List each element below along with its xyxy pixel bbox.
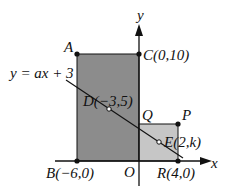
label-C: C(0,10)	[143, 47, 189, 64]
label-D: D(−3,5)	[82, 93, 133, 110]
point-R	[175, 158, 180, 163]
point-C	[136, 51, 141, 56]
label-E: E(2,k)	[163, 134, 201, 151]
label-Q: Q	[142, 107, 153, 123]
origin-label: O	[124, 164, 135, 180]
label-A: A	[63, 39, 74, 55]
x-axis-label: x	[210, 155, 218, 171]
point-A	[74, 51, 79, 56]
y-axis-arrow-icon	[135, 24, 143, 36]
line-equation-label: y = ax + 3	[8, 65, 74, 81]
coordinate-diagram: y x O A C(0,10) y = ax + 3 D(−3,5) Q P E…	[0, 0, 232, 192]
point-B	[74, 158, 79, 163]
label-B: B(−6,0)	[46, 165, 94, 182]
point-E	[157, 140, 161, 144]
label-P: P	[181, 107, 191, 123]
label-R: R(4,0)	[156, 165, 195, 182]
point-P	[175, 121, 180, 126]
y-axis-label: y	[135, 7, 144, 23]
